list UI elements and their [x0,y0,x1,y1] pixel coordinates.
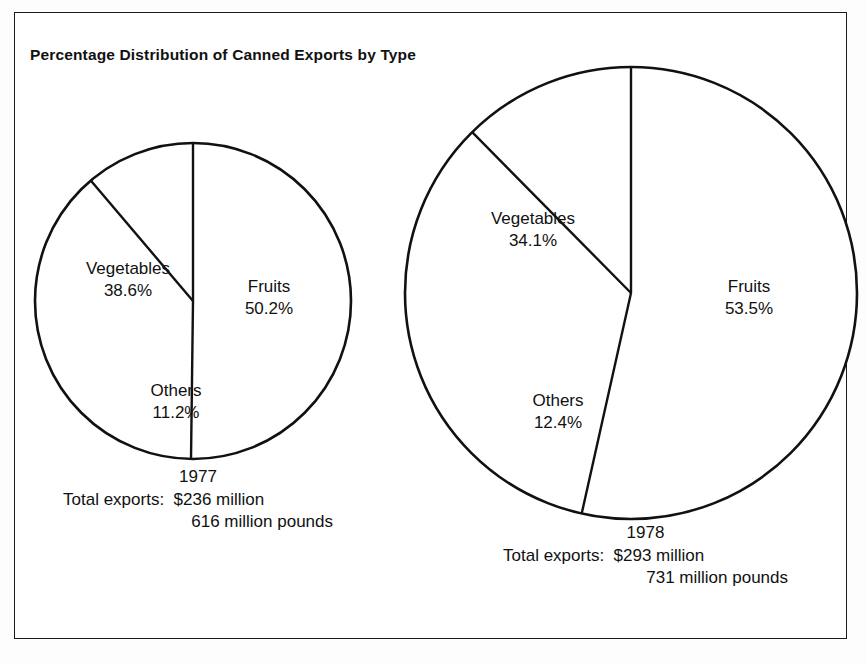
pie-1978-label-fruits: Fruits 53.5% [694,276,804,321]
pie-1977-label-fruits: Fruits 50.2% [214,276,324,321]
chart-title: Percentage Distribution of Canned Export… [30,46,416,64]
pie-1977-others-value: 11.2% [126,402,226,424]
figure-root: Percentage Distribution of Canned Export… [0,0,867,665]
pie-1977-caption: 1977 Total exports: $236 million 616 mil… [63,466,333,534]
pie-1978-fruits-value: 53.5% [694,298,804,320]
pie-1977-year: 1977 [63,466,333,489]
pie-1978-total-pounds: 731 million pounds [503,567,788,590]
pie-1977-label-vegetables: Vegetables 38.6% [68,258,188,303]
pie-1977-total-pounds: 616 million pounds [63,511,333,534]
pie-1978-label-others: Others 12.4% [508,390,608,435]
pie-1977-vegetables-value: 38.6% [68,280,188,302]
pie-1977-fruits-name: Fruits [214,276,324,298]
pie-1978-caption: 1978 Total exports: $293 million 731 mil… [503,522,788,590]
pie-1977-total-dollars: Total exports: $236 million [63,489,333,512]
pie-1978-fruits-name: Fruits [694,276,804,298]
pie-1977-others-name: Others [126,380,226,402]
pie-1978-vegetables-value: 34.1% [473,230,593,252]
pie-1978-vegetables-name: Vegetables [473,208,593,230]
pie-1978-total-dollars: Total exports: $293 million [503,545,788,568]
pie-1978-year: 1978 [503,522,788,545]
pie-1978-label-vegetables: Vegetables 34.1% [473,208,593,253]
pie-1977-vegetables-name: Vegetables [68,258,188,280]
pie-1977-label-others: Others 11.2% [126,380,226,425]
pie-1978-others-value: 12.4% [508,412,608,434]
pie-1977-fruits-value: 50.2% [214,298,324,320]
pie-1978-others-name: Others [508,390,608,412]
